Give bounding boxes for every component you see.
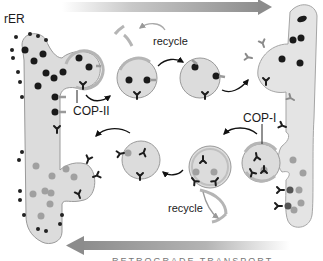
cop1-label: COP-I (243, 112, 276, 124)
er-golgi-transport-diagram: rER COP-II COP-I recycle recycle RETROGR… (0, 0, 323, 261)
transport-arrows (86, 59, 257, 174)
cop1-vesicle-1 (189, 146, 231, 188)
rough-er (10, 32, 103, 244)
cop2-label: COP-II (73, 105, 110, 117)
recycle-label-top: recycle (153, 36, 188, 47)
recycled-coat-bottom (200, 190, 226, 222)
cop1-vesicle-2 (117, 141, 160, 180)
recycle-label-bottom: recycle (168, 203, 203, 214)
cop2-vesicle-2 (180, 58, 225, 99)
cop2-vesicle-1 (117, 58, 157, 99)
rer-label: rER (4, 13, 25, 25)
retrograde-arrow (66, 236, 290, 255)
retrograde-caption: RETROGRADE TRANSPORT (112, 255, 273, 261)
anterograde-arrow (62, 0, 272, 15)
